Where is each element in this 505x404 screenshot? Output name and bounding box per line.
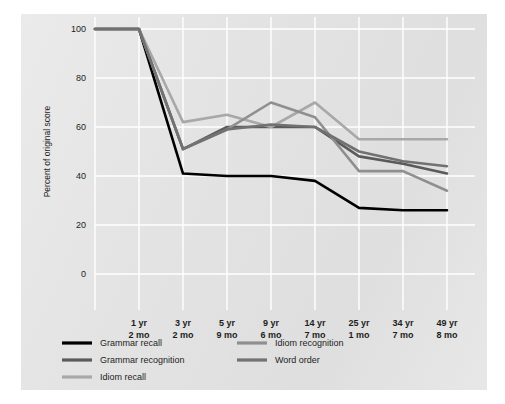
legend-label: Grammar recall — [100, 338, 162, 348]
x-tick-label-month: 8 mo — [436, 330, 458, 340]
x-tick-label-month: 9 mo — [216, 330, 238, 340]
legend-label: Word order — [275, 355, 320, 365]
x-tick-label-year: 1 yr — [131, 318, 148, 328]
y-tick-label: 20 — [76, 220, 86, 230]
legend-label: Grammar recognition — [100, 355, 185, 365]
x-tick-label-year: 14 yr — [304, 318, 326, 328]
x-tick-label-month: 1 mo — [348, 330, 370, 340]
y-tick-label: 0 — [81, 269, 86, 279]
x-tick-label-year: 3 yr — [175, 318, 192, 328]
legend-label: Idiom recognition — [275, 338, 344, 348]
chart-figure: 020406080100 1 yr2 mo3 yr2 mo5 yr9 mo9 y… — [0, 0, 505, 404]
chart-legend: Grammar recallGrammar recognitionIdiom r… — [62, 338, 344, 382]
y-tick-label: 80 — [76, 73, 86, 83]
x-tick-label-year: 49 yr — [436, 318, 458, 328]
y-axis-label: Percent of original score — [42, 105, 52, 197]
x-tick-label-year: 5 yr — [219, 318, 236, 328]
line-chart: 020406080100 1 yr2 mo3 yr2 mo5 yr9 mo9 y… — [0, 0, 505, 404]
y-axis-title: Percent of original score — [42, 105, 52, 197]
y-axis-ticks: 020406080100 — [71, 24, 86, 279]
x-tick-label-month: 7 mo — [392, 330, 414, 340]
x-tick-label-year: 9 yr — [263, 318, 280, 328]
x-tick-label-year: 34 yr — [392, 318, 414, 328]
x-axis-ticks: 1 yr2 mo3 yr2 mo5 yr9 mo9 yr6 mo14 yr7 m… — [128, 318, 458, 340]
x-tick-label-year: 25 yr — [348, 318, 370, 328]
y-tick-label: 100 — [71, 24, 86, 34]
y-tick-label: 40 — [76, 171, 86, 181]
legend-label: Idiom recall — [100, 372, 146, 382]
y-tick-label: 60 — [76, 122, 86, 132]
x-tick-label-month: 2 mo — [172, 330, 194, 340]
